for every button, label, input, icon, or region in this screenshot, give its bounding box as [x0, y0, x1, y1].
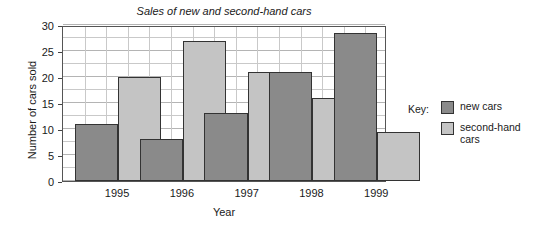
bar: [269, 72, 312, 181]
y-axis-tick-label: 30: [32, 21, 54, 31]
x-axis-title: Year: [62, 206, 386, 218]
bar: [334, 33, 377, 181]
legend-key-label: Key:: [408, 103, 429, 115]
bar: [204, 113, 247, 181]
y-axis-tick-label: 20: [32, 73, 54, 83]
bar: [75, 124, 118, 181]
y-axis-tick-label: 10: [32, 125, 54, 135]
bar-chart-figure: Sales of new and second-hand cars Number…: [0, 0, 534, 233]
legend-label-second-hand-cars: second-hand cars: [460, 121, 522, 145]
legend-swatch-second-hand-cars: [441, 122, 454, 135]
y-axis-tick-label: 25: [32, 47, 54, 57]
bars-layer: [63, 27, 385, 181]
bar: [140, 139, 183, 181]
plot-area: [62, 26, 386, 182]
x-axis-tick-label: 1995: [87, 187, 147, 199]
legend-swatch-new-cars: [441, 101, 454, 114]
chart-title: Sales of new and second-hand cars: [62, 5, 386, 17]
x-axis-tick-label: 1998: [281, 187, 341, 199]
grid-line-horizontal: [63, 24, 385, 25]
y-axis-tick-label: 0: [32, 177, 54, 187]
x-axis-tick-label: 1996: [152, 187, 212, 199]
x-axis-tick-label: 1997: [217, 187, 277, 199]
legend-label-new-cars: new cars: [460, 100, 522, 112]
x-axis-tick-label: 1999: [346, 187, 406, 199]
bar: [377, 132, 420, 181]
y-axis-tick: [58, 182, 62, 183]
y-axis-tick-label: 15: [32, 99, 54, 109]
legend-item-second-hand-cars: second-hand cars: [441, 121, 522, 145]
y-axis-tick-label: 5: [32, 151, 54, 161]
legend-item-new-cars: new cars: [441, 100, 522, 114]
